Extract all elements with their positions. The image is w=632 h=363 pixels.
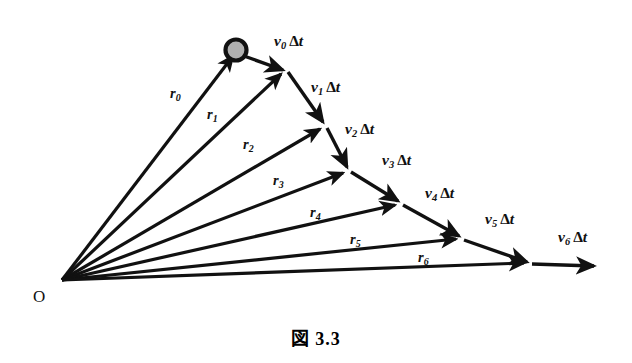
- velocity-subscript: 3: [389, 159, 394, 170]
- time-symbol: t: [336, 78, 340, 95]
- position-label-r2: r2: [243, 137, 254, 154]
- velocity-label-v4: v4Δt: [425, 185, 454, 203]
- velocity-symbol: v: [425, 184, 432, 201]
- time-symbol: t: [583, 228, 587, 245]
- delta-symbol: Δ: [397, 151, 407, 168]
- velocity-symbol: v: [558, 228, 565, 245]
- velocity-symbol: v: [311, 78, 318, 95]
- time-symbol: t: [450, 184, 454, 201]
- position-subscript: 0: [176, 92, 181, 103]
- position-subscript: 2: [249, 143, 254, 154]
- position-label-r0: r0: [170, 86, 181, 103]
- time-symbol: t: [299, 32, 303, 49]
- velocity-symbol: v: [382, 151, 389, 168]
- time-symbol: t: [510, 210, 514, 227]
- velocity-vector-v5: [464, 240, 527, 262]
- velocity-label-v5: v5Δt: [485, 211, 514, 229]
- velocity-vector-v6: [532, 264, 594, 266]
- velocity-label-v2: v2Δt: [345, 121, 374, 139]
- velocity-vector-v3: [351, 172, 398, 201]
- position-subscript: 5: [356, 238, 361, 249]
- delta-symbol: Δ: [500, 210, 510, 227]
- figure-caption: 図3.3: [0, 324, 632, 350]
- position-subscript: 6: [424, 256, 429, 267]
- velocity-subscript: 6: [565, 236, 570, 247]
- caption-number: 3.3: [315, 329, 341, 349]
- delta-symbol: Δ: [440, 184, 450, 201]
- velocity-symbol: v: [345, 120, 352, 137]
- velocity-vector-v0: [244, 56, 283, 70]
- delta-symbol: Δ: [573, 228, 583, 245]
- position-subscript: 1: [213, 113, 218, 124]
- velocity-subscript: 0: [281, 40, 286, 51]
- position-label-r6: r6: [418, 250, 429, 267]
- velocity-symbol: v: [274, 32, 281, 49]
- velocity-vector-v2: [327, 128, 347, 167]
- origin-label: O: [33, 288, 46, 305]
- velocity-vector-v4: [403, 205, 459, 236]
- velocity-subscript: 2: [352, 128, 357, 139]
- vector-diagram: [0, 0, 632, 363]
- position-label-r4: r4: [310, 205, 321, 222]
- velocity-subscript: 4: [432, 192, 437, 203]
- velocity-symbol: v: [485, 210, 492, 227]
- delta-symbol: Δ: [360, 120, 370, 137]
- figure-container: v0Δt v1Δt v2Δt v3Δt v4Δt v5Δt v6Δt r0 r1…: [0, 0, 632, 363]
- delta-symbol: Δ: [326, 78, 336, 95]
- velocity-subscript: 5: [492, 218, 497, 229]
- velocity-label-v1: v1Δt: [311, 79, 340, 97]
- velocity-subscript: 1: [318, 86, 323, 97]
- position-label-r5: r5: [350, 232, 361, 249]
- velocity-label-v6: v6Δt: [558, 229, 587, 247]
- position-label-r3: r3: [273, 173, 284, 190]
- velocity-vector-group: [244, 56, 594, 266]
- position-label-r1: r1: [207, 107, 218, 124]
- time-symbol: t: [370, 120, 374, 137]
- position-subscript: 3: [279, 179, 284, 190]
- delta-symbol: Δ: [289, 32, 299, 49]
- time-symbol: t: [407, 151, 411, 168]
- position-subscript: 4: [316, 211, 321, 222]
- velocity-label-v0: v0Δt: [274, 33, 303, 51]
- caption-symbol: 図: [291, 329, 310, 349]
- position-vector-group: [62, 56, 524, 280]
- velocity-label-v3: v3Δt: [382, 152, 411, 170]
- start-point-marker: [226, 40, 247, 61]
- position-vector-r1: [62, 74, 281, 280]
